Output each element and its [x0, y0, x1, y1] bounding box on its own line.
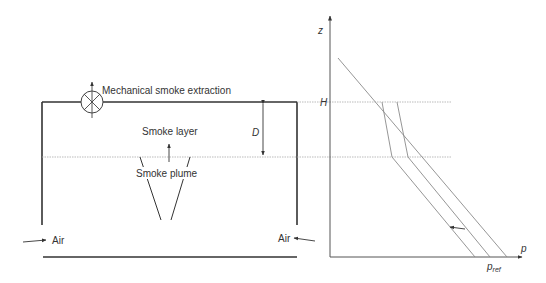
air-left-label: Air — [52, 235, 65, 246]
extraction-label: Mechanical smoke extraction — [102, 85, 231, 96]
shift-arrow — [450, 227, 465, 229]
pref-label: pref — [486, 261, 502, 273]
air-right-label: Air — [278, 233, 291, 244]
smoke-layer-label: Smoke layer — [142, 126, 198, 137]
p-axis-label: p — [520, 243, 527, 254]
plume-right-edge — [171, 157, 190, 220]
inside-pressure-line-1 — [382, 102, 475, 257]
plume-left-edge — [140, 157, 161, 220]
pressure-chart: z p H pref — [317, 16, 527, 273]
air-right-arrow — [294, 238, 315, 241]
extraction-fan-icon — [81, 82, 103, 118]
air-left-arrow — [23, 240, 46, 242]
outside-pressure-line — [338, 58, 507, 257]
depth-label: D — [252, 127, 259, 138]
smoke-plume-label: Smoke plume — [136, 168, 198, 179]
h-label: H — [320, 97, 328, 108]
smoke-extraction-diagram: Mechanical smoke extraction D Smoke laye… — [0, 0, 546, 283]
z-axis-label: z — [317, 25, 323, 36]
